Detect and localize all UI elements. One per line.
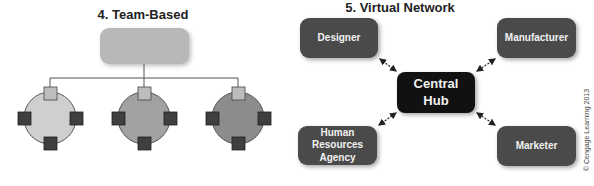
node-designer: Designer: [300, 18, 378, 58]
copyright-notice: © Cengage Learning 2013: [583, 89, 590, 171]
node-manufacturer: Manufacturer: [497, 18, 576, 58]
virtual-network-title: 5. Virtual Network: [335, 0, 465, 15]
node-human-resources-agency: Human Resources Agency: [298, 126, 377, 165]
node-central-hub: Central Hub: [397, 72, 475, 113]
node-marketer: Marketer: [497, 126, 576, 166]
